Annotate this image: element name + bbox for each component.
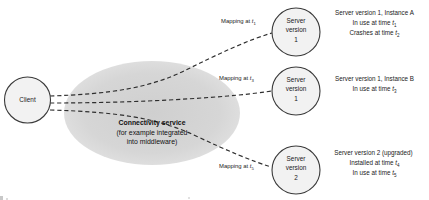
server-node-1-line3: 1 — [272, 36, 320, 44]
server-node-3-line1: Server — [272, 155, 320, 163]
annotation-instance-a-line-1-subscript: 1 — [394, 23, 397, 28]
annotation-instance-a-line-2-text: Crashes at time — [349, 29, 395, 36]
annotation-instance-a-line-2: Crashes at time t2 — [320, 29, 429, 38]
scan-artifact-left — [0, 196, 3, 200]
annotation-instance-a-line-2-subscript: 2 — [397, 33, 400, 38]
mapping-label-t1-subscript: 1 — [253, 21, 255, 26]
mapping-label-t3-subscript: 3 — [251, 78, 253, 83]
mapping-label-t1: Mapping at t1 — [221, 18, 256, 25]
server-node-2-line3: 1 — [272, 95, 320, 103]
server-node-3-line2: version — [272, 164, 320, 172]
scan-artifact-center — [188, 197, 190, 199]
mapping-label-t5: Mapping at t5 — [219, 163, 254, 170]
client-label: Client — [7, 96, 48, 104]
annotation-version-2-line-1-subscript: 4 — [397, 163, 400, 168]
annotation-instance-b-line-1-subscript: 3 — [394, 89, 397, 94]
annotation-instance-a-line-1: In use at time t1 — [320, 19, 429, 28]
server-node-2-line2: version — [272, 85, 320, 93]
server-node-2-line1: Server — [272, 76, 320, 84]
annotation-instance-a-title: Server version 1, Instance A — [320, 9, 429, 17]
annotation-instance-b-line-1-text: In use at time — [353, 85, 393, 92]
mapping-label-t3-text: Mapping at — [219, 75, 250, 81]
annotation-version-2-line-1-text: Installed at time — [349, 159, 395, 166]
annotation-instance-b-line-1: In use at time t3 — [320, 85, 429, 94]
mapping-label-t3: Mapping at t3 — [219, 75, 254, 82]
server-node-1-line2: version — [272, 26, 320, 34]
annotation-version-2-line-2: In use at time t5 — [320, 169, 429, 178]
annotation-version-2-line-1: Installed at time t4 — [320, 159, 429, 168]
mapping-label-t5-text: Mapping at — [219, 163, 250, 169]
annotation-instance-b-title: Server version 1, Instance B — [320, 75, 429, 83]
mapping-label-t5-subscript: 5 — [251, 166, 253, 171]
scan-artifact-left-2 — [6, 198, 8, 200]
mapping-label-t1-text: Mapping at — [221, 18, 252, 24]
connectivity-service-ellipse — [64, 61, 240, 165]
server-node-1-line1: Server — [272, 17, 320, 25]
annotation-version-2-title: Server version 2 (upgraded) — [318, 149, 429, 157]
connectivity-service-subtitle-line2: into middleware) — [72, 138, 232, 147]
annotation-version-2-line-2-text: In use at time — [353, 169, 393, 176]
server-node-3-line3: 2 — [272, 174, 320, 182]
connectivity-service-title: Connectivity service — [82, 119, 222, 128]
diagram-canvas: Client Connectivity service (for example… — [0, 0, 429, 200]
annotation-version-2-line-2-subscript: 5 — [394, 173, 397, 178]
annotation-instance-a-line-1-text: In use at time — [353, 19, 393, 26]
connectivity-service-subtitle-line1: (for example integrated — [72, 129, 232, 138]
